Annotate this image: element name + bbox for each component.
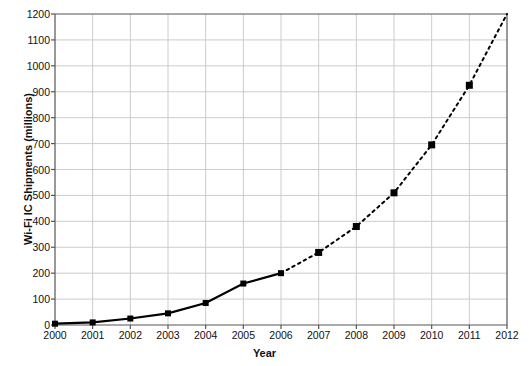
data-point-marker [90, 319, 96, 325]
gridlines [55, 14, 507, 325]
data-point-marker [52, 321, 58, 327]
data-point-marker [203, 300, 209, 306]
data-point-marker [127, 316, 133, 322]
data-point-marker [466, 82, 473, 89]
data-point-marker [391, 189, 398, 196]
data-point-marker [278, 270, 284, 276]
chart-container: Wi-Fi IC Shipments (millions) Year 01002… [0, 0, 529, 366]
data-point-marker [240, 281, 246, 287]
plot-area [0, 0, 529, 366]
axis-frame [51, 14, 507, 329]
data-point-marker [165, 310, 171, 316]
data-point-marker [353, 223, 360, 230]
data-markers [52, 82, 473, 327]
data-point-marker [315, 249, 322, 256]
data-point-marker [428, 141, 435, 148]
